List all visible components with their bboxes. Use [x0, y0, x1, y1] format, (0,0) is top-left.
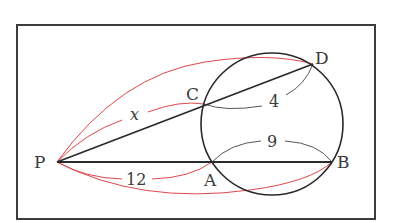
bracket-CD-left — [204, 104, 262, 109]
label-D: D — [315, 48, 329, 68]
bracket-PA-right — [152, 162, 212, 179]
bracket-PC-right — [148, 103, 204, 112]
length-PA: 12 — [126, 170, 146, 189]
length-CD: 4 — [269, 92, 279, 111]
length-PC: x — [130, 105, 139, 124]
length-AB: 9 — [267, 132, 277, 151]
secant-diagram: P C D A B x 4 12 9 — [0, 0, 394, 223]
label-C: C — [186, 84, 199, 104]
bracket-PB — [57, 162, 332, 194]
label-A: A — [203, 170, 217, 190]
label-B: B — [337, 152, 350, 172]
bracket-AB-left — [212, 141, 261, 162]
bracket-AB-right — [285, 141, 332, 162]
circle — [201, 53, 343, 195]
label-P: P — [34, 152, 45, 172]
